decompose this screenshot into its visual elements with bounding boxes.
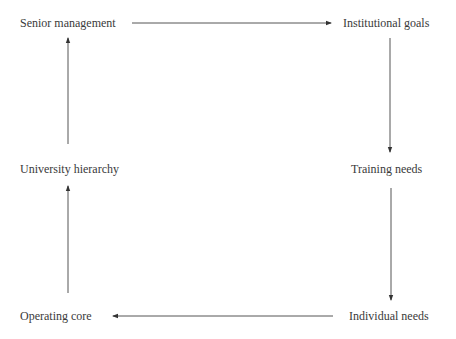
node-operating-core: Operating core <box>20 309 92 323</box>
flow-diagram: Senior management Institutional goals Un… <box>0 0 456 339</box>
node-senior-management: Senior management <box>20 16 116 30</box>
node-training-needs: Training needs <box>351 162 422 176</box>
node-institutional-goals: Institutional goals <box>343 16 429 30</box>
node-individual-needs: Individual needs <box>349 309 429 323</box>
node-university-hierarchy: University hierarchy <box>20 162 119 176</box>
